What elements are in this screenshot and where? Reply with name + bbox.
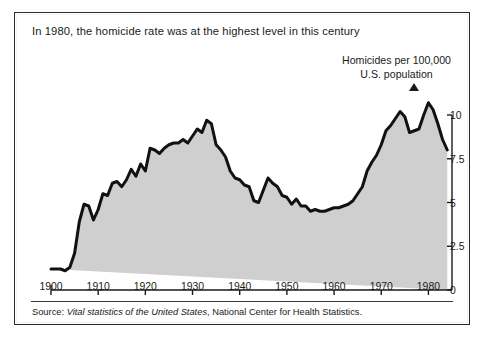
figure-title: In 1980, the homicide rate was at the hi… bbox=[32, 25, 360, 37]
x-tick-label: 1940 bbox=[228, 281, 251, 292]
figure-frame: In 1980, the homicide rate was at the hi… bbox=[14, 12, 470, 325]
area-chart bbox=[23, 75, 463, 297]
source-divider bbox=[31, 301, 453, 302]
y-tick-label: 7.5 bbox=[450, 153, 464, 164]
source-prefix: Source: bbox=[32, 307, 64, 317]
x-tick-label: 1930 bbox=[181, 281, 204, 292]
x-tick-label: 1950 bbox=[275, 281, 298, 292]
x-axis-labels: 190019101920193019401950196019701980 bbox=[15, 281, 471, 299]
y-axis-labels: 02.557.510 bbox=[440, 75, 480, 297]
y-tick-label: 10 bbox=[450, 110, 462, 121]
source-note: Source: Vital statistics of the United S… bbox=[32, 307, 362, 317]
x-tick-label: 1980 bbox=[417, 281, 440, 292]
x-tick-label: 1970 bbox=[370, 281, 393, 292]
x-tick-label: 1910 bbox=[87, 281, 110, 292]
x-tick-label: 1960 bbox=[322, 281, 345, 292]
x-tick-label: 1900 bbox=[39, 281, 62, 292]
chart-plot-area bbox=[23, 75, 463, 297]
axis-annotation-line1: Homicides per 100,000 bbox=[342, 54, 451, 68]
x-tick-label: 1920 bbox=[134, 281, 157, 292]
source-rest: , National Center for Health Statistics. bbox=[207, 307, 362, 317]
y-tick-label: 5 bbox=[450, 197, 456, 208]
source-publication: Vital statistics of the United States bbox=[67, 307, 207, 317]
y-tick-label: 2.5 bbox=[450, 241, 464, 252]
